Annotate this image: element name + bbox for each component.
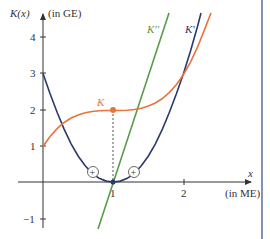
cost-function-chart: 4 3 2 1 −1 1 2 K(x) (in GE) x (in ME) K … [0, 0, 270, 239]
curve-k-second-derivative [98, 13, 169, 229]
label-k: K [96, 96, 105, 108]
y-axis-symbol: K(x) [9, 7, 30, 20]
x-axis-symbol: x [247, 167, 253, 179]
label-k-second: K'' [146, 23, 160, 35]
inflection-point [110, 107, 116, 113]
label-k-first: K' [184, 23, 195, 35]
minimum-point [111, 180, 116, 185]
y-tick-label-2: 2 [30, 104, 36, 116]
plus-marker-left: + [88, 167, 99, 178]
x-tick-label-2: 2 [181, 187, 187, 199]
plus-marker-right: + [129, 167, 140, 178]
y-tick-label-1: 1 [30, 140, 36, 152]
x-axis-unit: (in ME) [225, 187, 260, 200]
svg-text:+: + [131, 167, 137, 178]
y-tick-label-minus1: −1 [23, 213, 35, 225]
y-axis-unit: (in GE) [48, 7, 82, 20]
y-tick-label-4: 4 [30, 31, 36, 43]
curve-k-first-derivative [43, 73, 113, 182]
y-tick-label-3: 3 [30, 67, 36, 79]
svg-text:+: + [90, 167, 96, 178]
